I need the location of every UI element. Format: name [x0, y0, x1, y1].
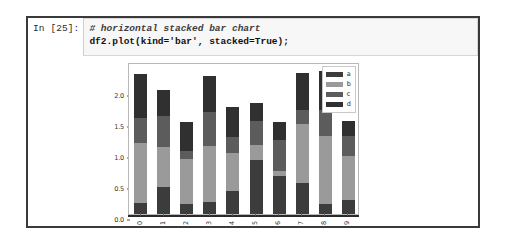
- bar-segment-b: [226, 153, 239, 191]
- x-tick-label: 1: [159, 221, 167, 225]
- bar-segment-c: [157, 116, 170, 147]
- bar-segment-d: [296, 73, 309, 110]
- bar-segment-b: [296, 124, 309, 183]
- legend-item-d: d: [326, 100, 351, 109]
- legend-swatch-a: [326, 72, 343, 77]
- legend-label: d: [347, 101, 351, 108]
- bar-segment-c: [319, 110, 332, 137]
- bar-segment-b: [250, 145, 263, 161]
- bar-segment-d: [273, 122, 286, 141]
- legend-swatch-c: [326, 92, 343, 97]
- legend-label: c: [347, 91, 351, 98]
- bar-segment-a: [250, 160, 263, 214]
- bar-segment-c: [226, 137, 239, 153]
- legend-swatch-b: [326, 82, 343, 87]
- input-prompt-label: In [25]:: [28, 18, 83, 34]
- x-tick-mark: [209, 213, 210, 216]
- x-axis-ticks: 0123456789: [128, 216, 359, 228]
- bar-segment-b: [134, 143, 147, 203]
- bar-stack: [134, 62, 147, 214]
- cell-output-area: 0.00.51.01.52.0 abcd 0123456789: [28, 56, 478, 226]
- legend-item-b: b: [326, 80, 351, 89]
- x-tick-label: 5: [251, 221, 259, 225]
- y-axis-ticks: 0.00.51.01.52.0: [100, 63, 128, 215]
- legend-label: a: [347, 71, 351, 78]
- legend-item-c: c: [326, 90, 351, 99]
- bar-segment-b: [342, 156, 355, 200]
- matplotlib-figure: 0.00.51.01.52.0 abcd 0123456789: [100, 58, 368, 224]
- bar-segment-c: [273, 140, 286, 170]
- bar-segment-b: [203, 146, 216, 202]
- x-tick-label: 8: [320, 221, 328, 225]
- bar-segment-b: [180, 159, 193, 204]
- x-tick-mark: [301, 213, 302, 216]
- x-tick-label: 4: [228, 221, 236, 225]
- y-tick-label: 0.0: [114, 216, 124, 224]
- notebook-cell: In [25]: # horizontal stacked bar chart …: [26, 16, 480, 228]
- bar-segment-d: [226, 107, 239, 137]
- chart-legend: abcd: [322, 66, 356, 113]
- bar-segment-b: [273, 171, 286, 176]
- bar-stack: [273, 62, 286, 214]
- bar-segment-c: [203, 112, 216, 146]
- x-tick-mark: [347, 213, 348, 216]
- bar-stack: [157, 62, 170, 214]
- y-tick-label: 2.0: [114, 92, 124, 100]
- code-line-statement: df2.plot(kind='bar', stacked=True);: [89, 35, 473, 48]
- bar-segment-d: [180, 122, 193, 152]
- bar-stack: [296, 62, 309, 214]
- legend-swatch-d: [326, 102, 343, 107]
- x-tick-mark: [140, 213, 141, 216]
- x-tick-label: 2: [182, 221, 190, 225]
- bar-segment-b: [157, 147, 170, 187]
- legend-label: b: [347, 81, 351, 88]
- x-tick-label: 9: [343, 221, 351, 225]
- bar-segment-d: [203, 76, 216, 112]
- y-tick-label: 1.0: [114, 154, 124, 162]
- bar-segment-c: [296, 110, 309, 124]
- x-tick-label: 3: [205, 221, 213, 225]
- x-tick-label: 6: [274, 221, 282, 225]
- code-input-row: In [25]: # horizontal stacked bar chart …: [28, 18, 478, 56]
- bar-segment-a: [157, 187, 170, 214]
- x-tick-mark: [255, 213, 256, 216]
- bar-segment-d: [342, 121, 355, 137]
- bar-segment-a: [296, 183, 309, 214]
- legend-item-a: a: [326, 70, 351, 79]
- bar-segment-c: [342, 136, 355, 156]
- y-tick-label: 0.5: [114, 185, 124, 193]
- bar-stack: [226, 62, 239, 214]
- y-tick-label: 1.5: [114, 123, 124, 131]
- x-tick-mark: [163, 213, 164, 216]
- x-tick-mark: [324, 213, 325, 216]
- x-tick-mark: [232, 213, 233, 216]
- bar-segment-c: [180, 151, 193, 158]
- plot-axes-frame: abcd: [128, 63, 359, 215]
- bar-segment-c: [134, 118, 147, 143]
- bar-stack: [203, 62, 216, 214]
- bar-segment-a: [342, 200, 355, 214]
- code-line-comment: # horizontal stacked bar chart: [89, 22, 473, 35]
- bar-segment-d: [134, 74, 147, 117]
- bar-segment-a: [273, 176, 286, 214]
- x-tick-label: 0: [136, 221, 144, 225]
- code-editor[interactable]: # horizontal stacked bar chart df2.plot(…: [83, 18, 478, 56]
- x-tick-label: 7: [297, 221, 305, 225]
- bar-stack: [180, 62, 193, 214]
- bar-segment-c: [250, 121, 263, 145]
- bar-stack: [250, 62, 263, 214]
- bar-segment-a: [226, 191, 239, 214]
- bar-segment-d: [157, 90, 170, 116]
- bar-segment-d: [250, 103, 263, 121]
- x-tick-mark: [278, 213, 279, 216]
- bar-segment-b: [319, 136, 332, 204]
- x-tick-mark: [186, 213, 187, 216]
